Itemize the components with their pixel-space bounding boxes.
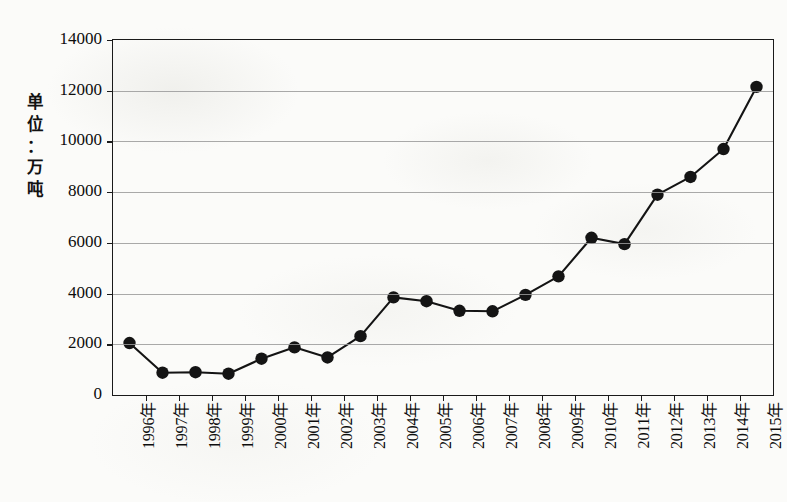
x-axis-tick-label: 2007年 [498, 402, 522, 449]
x-axis-tick-label: 2005年 [432, 402, 456, 449]
y-axis-tick-label: 6000 [46, 232, 108, 252]
x-axis-tick-label: 2011年 [630, 402, 654, 448]
y-axis-tick-mark [107, 294, 113, 295]
y-axis-title-char: 万 [22, 157, 48, 179]
data-point-marker: 2006年: 3320 [453, 305, 465, 317]
x-axis-tick-labels: 1996年1997年1998年1999年2000年2001年2002年2003年… [112, 394, 772, 502]
gridline [113, 243, 773, 244]
y-axis-tick-label: 14000 [46, 29, 108, 49]
gridline [113, 141, 773, 142]
x-axis-tick-label: 2003年 [366, 402, 390, 449]
y-axis-tick-mark [107, 243, 113, 244]
plot-inner: 1996年: 20501997年: 8801998年: 9001999年: 84… [113, 40, 773, 395]
y-axis-tick-label: 4000 [46, 283, 108, 303]
y-axis-title-char: 位 [22, 114, 48, 136]
y-axis-title-char: 吨 [22, 179, 48, 201]
y-axis-tick-label: 12000 [46, 80, 108, 100]
x-axis-tick-label: 1997年 [168, 402, 192, 449]
x-axis-tick-label: 2000年 [267, 402, 291, 449]
gridline [113, 294, 773, 295]
data-point-marker: 2007年: 3300 [486, 305, 498, 317]
x-axis-tick-label: 2004年 [399, 402, 423, 449]
y-axis-tick-mark [107, 192, 113, 193]
x-axis-tick-label: 1996年 [135, 402, 159, 449]
data-point-marker: 2009年: 4680 [552, 270, 564, 282]
data-point-marker: 2014年: 9700 [717, 143, 729, 155]
x-axis-tick-label: 2009年 [564, 402, 588, 449]
data-point-marker: 1999年: 840 [222, 368, 234, 380]
gridline [113, 91, 773, 92]
data-point-marker: 2013年: 8600 [684, 171, 696, 183]
chart-page: 单位：万吨 02000400060008000100001200014000 1… [0, 0, 787, 502]
y-axis-tick-label: 8000 [46, 181, 108, 201]
gridline [113, 344, 773, 345]
y-axis-tick-mark [107, 40, 113, 41]
data-point-marker: 2011年: 5950 [618, 238, 630, 250]
y-axis-title-char: 单 [22, 92, 48, 114]
x-axis-tick-label: 2006年 [465, 402, 489, 449]
y-axis-tick-labels: 02000400060008000100001200014000 [46, 0, 108, 502]
x-axis-tick-label: 1998年 [201, 402, 225, 449]
series-line [130, 87, 757, 374]
data-point-marker: 1998年: 900 [189, 366, 201, 378]
x-axis-tick-label: 2010年 [597, 402, 621, 449]
x-axis-tick-label: 2012年 [663, 402, 687, 449]
x-axis-tick-label: 2001年 [300, 402, 324, 449]
x-axis-tick-label: 2015年 [762, 402, 786, 449]
y-axis-tick-mark [107, 141, 113, 142]
y-axis-title: 单位：万吨 [22, 92, 48, 201]
data-point-marker: 2012年: 7900 [651, 188, 663, 200]
x-axis-tick-label: 2013年 [696, 402, 720, 449]
plot-area: 1996年: 20501997年: 8801998年: 9001999年: 84… [112, 39, 774, 396]
data-point-marker: 2005年: 3700 [420, 295, 432, 307]
x-axis-tick-label: 2008年 [531, 402, 555, 449]
data-point-marker: 2003年: 2320 [354, 330, 366, 342]
y-axis-tick-mark [107, 91, 113, 92]
data-point-marker: 2008年: 3950 [519, 289, 531, 301]
x-axis-tick-label: 2014年 [729, 402, 753, 449]
x-axis-tick-label: 2002年 [333, 402, 357, 449]
data-point-marker: 1996年: 2050 [123, 337, 135, 349]
data-point-marker: 2002年: 1480 [321, 351, 333, 363]
data-point-marker: 2000年: 1430 [255, 353, 267, 365]
y-axis-tick-label: 0 [46, 384, 108, 404]
x-axis-tick-label: 1999年 [234, 402, 258, 449]
line-series: 1996年: 20501997年: 8801998年: 9001999年: 84… [113, 40, 773, 395]
y-axis-tick-label: 2000 [46, 333, 108, 353]
data-point-marker: 2001年: 1880 [288, 341, 300, 353]
gridline [113, 192, 773, 193]
data-point-marker: 1997年: 880 [156, 366, 168, 378]
y-axis-tick-label: 10000 [46, 130, 108, 150]
y-axis-title-char: ： [22, 136, 48, 158]
y-axis-tick-mark [107, 344, 113, 345]
